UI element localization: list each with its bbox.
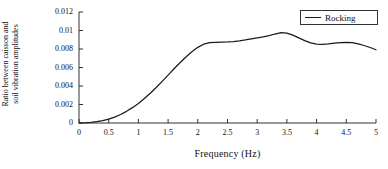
y-tick-label: 0.006 bbox=[37, 63, 73, 72]
x-tick-label: 2 bbox=[188, 128, 208, 137]
legend-label-rocking: Rocking bbox=[325, 13, 356, 23]
x-tick-label: 5 bbox=[366, 128, 386, 137]
legend-line-sample bbox=[305, 17, 321, 18]
x-tick-label: 0.5 bbox=[99, 128, 119, 137]
y-axis-title-line2: soil vibration amplitudes bbox=[11, 0, 21, 129]
axis-lines bbox=[79, 12, 376, 123]
y-tick-label: 0.01 bbox=[37, 26, 73, 35]
x-axis-title: Frequency (Hz) bbox=[79, 148, 376, 159]
x-tick-label: 4.5 bbox=[336, 128, 356, 137]
axis-ticks bbox=[79, 12, 376, 123]
x-tick-label: 0 bbox=[69, 128, 89, 137]
x-tick-label: 3.5 bbox=[277, 128, 297, 137]
legend: Rocking bbox=[300, 10, 378, 25]
chart-figure: Ratio between caisson and soil vibration… bbox=[0, 0, 388, 169]
y-tick-label: 0.008 bbox=[37, 44, 73, 53]
series-line-rocking bbox=[79, 33, 376, 123]
y-tick-label: 0.004 bbox=[37, 81, 73, 90]
x-tick-label: 4 bbox=[307, 128, 327, 137]
x-tick-label: 1 bbox=[128, 128, 148, 137]
y-tick-label: 0 bbox=[37, 118, 73, 127]
y-axis-title: Ratio between caisson and soil vibration… bbox=[1, 0, 21, 129]
x-tick-label: 2.5 bbox=[218, 128, 238, 137]
y-tick-label: 0.012 bbox=[37, 7, 73, 16]
x-tick-label: 3 bbox=[247, 128, 267, 137]
y-tick-label: 0.002 bbox=[37, 100, 73, 109]
x-tick-label: 1.5 bbox=[158, 128, 178, 137]
y-axis-title-line1: Ratio between caisson and bbox=[1, 0, 11, 129]
